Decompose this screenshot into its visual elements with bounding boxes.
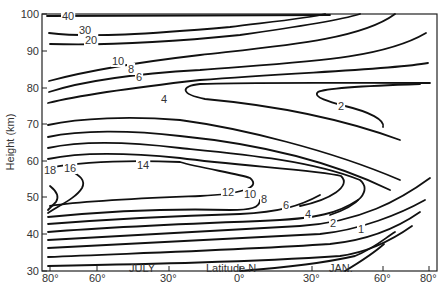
contour-label-6-lower: 6 — [283, 199, 289, 211]
y-axis — [42, 14, 47, 271]
y-tick-70: 70 — [27, 118, 39, 130]
x-annotation-row: JULY Latitude N JAN. — [0, 262, 448, 276]
contour-label-4-lower: 4 — [305, 208, 311, 220]
y-tick-labels: 30 40 50 60 70 80 90 100 — [21, 8, 39, 277]
contour-label-6: 6 — [136, 71, 142, 83]
x-axis-label: Latitude N — [206, 262, 256, 274]
contour-label-8-lower: 8 — [261, 193, 267, 205]
y-tick-40: 40 — [27, 228, 39, 240]
contour-label-14: 14 — [137, 159, 149, 171]
contour-label-40: 40 — [62, 10, 74, 22]
contour-lines — [47, 14, 430, 271]
contour-label-1: 1 — [358, 223, 364, 235]
contour-label-8: 8 — [128, 63, 134, 75]
y-tick-60: 60 — [27, 155, 39, 167]
y-tick-90: 90 — [27, 45, 39, 57]
contour-label-2-lower: 2 — [330, 217, 336, 229]
y-tick-100: 100 — [21, 8, 39, 20]
contour-label-12: 12 — [222, 186, 234, 198]
y-tick-80: 80 — [27, 82, 39, 94]
y-tick-50: 50 — [27, 191, 39, 203]
contour-label-4: 4 — [161, 93, 167, 105]
x-annotation-jan: JAN. — [329, 262, 353, 274]
contour-label-2-top: 2 — [338, 100, 344, 112]
contour-label-10-lower: 10 — [244, 188, 256, 200]
x-annotation-july: JULY — [129, 262, 155, 274]
contour-label-16: 16 — [64, 162, 76, 174]
contour-label-20: 20 — [85, 34, 97, 46]
contour-label-18: 18 — [44, 164, 56, 176]
contour-label-10: 10 — [112, 55, 124, 67]
y-axis-label: Height (km) — [4, 114, 16, 171]
